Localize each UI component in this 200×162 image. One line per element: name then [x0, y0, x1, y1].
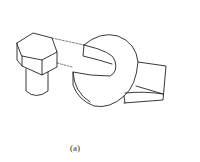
bolt-wrench-diagram — [0, 0, 200, 162]
figure-label: (a) — [70, 143, 80, 153]
hex-bolt — [17, 33, 57, 96]
open-end-wrench — [73, 35, 166, 107]
